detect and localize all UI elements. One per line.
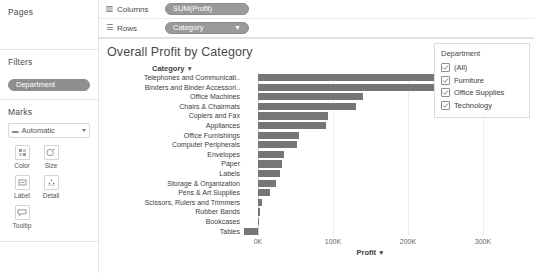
marks-size-label: Size — [45, 162, 58, 169]
row-label[interactable]: Envelopes — [99, 150, 243, 160]
color-icon — [15, 145, 30, 160]
gridline — [408, 92, 409, 102]
chart-row: Rubber Bands — [99, 207, 528, 217]
row-label[interactable]: Labels — [99, 169, 243, 179]
bar[interactable] — [258, 132, 299, 139]
x-tick-label: 100K — [325, 238, 341, 245]
chart-row: Appliances — [99, 121, 528, 131]
gridline — [483, 188, 484, 198]
pages-title: Pages — [8, 7, 90, 17]
row-label[interactable]: Tables — [99, 227, 243, 237]
row-label[interactable]: Chairs & Chairmats — [99, 102, 243, 112]
row-track — [243, 227, 528, 237]
legend-item-label: (All) — [454, 63, 467, 72]
gridline — [483, 150, 484, 160]
sidebar-empty-space — [0, 242, 98, 273]
legend-item[interactable]: Office Supplies — [441, 88, 523, 97]
marks-card-detail[interactable]: Detail — [37, 175, 65, 199]
marks-type-dropdown[interactable]: ▬ Automatic — [8, 123, 90, 138]
row-label[interactable]: Binders and Binder Accessori.. — [99, 83, 243, 93]
bar[interactable] — [258, 218, 259, 225]
zero-line — [258, 227, 259, 237]
bar[interactable] — [258, 189, 270, 196]
chart-row: Scissors, Rulers and Trimmers — [99, 198, 528, 208]
marks-type-label: Automatic — [22, 126, 83, 135]
gridline — [483, 227, 484, 237]
legend-item[interactable]: Furniture — [441, 76, 523, 85]
row-track — [243, 198, 528, 208]
row-label[interactable]: Paper — [99, 159, 243, 169]
legend-title: Department — [441, 49, 523, 58]
bar[interactable] — [258, 84, 443, 91]
bar[interactable] — [244, 228, 258, 235]
marks-card-size[interactable]: Size — [37, 145, 65, 169]
row-label[interactable]: Pens & Art Supplies — [99, 188, 243, 198]
checkbox-checked-icon[interactable] — [441, 101, 450, 110]
gridline — [483, 131, 484, 141]
bar[interactable] — [258, 151, 284, 158]
row-label[interactable]: Office Furnishings — [99, 131, 243, 141]
rows-shelf[interactable]: ☰ Rows Category ▼ — [99, 19, 534, 38]
bar[interactable] — [258, 93, 363, 100]
row-label[interactable]: Computer Peripherals — [99, 140, 243, 150]
marks-card-label[interactable]: Label — [8, 175, 36, 199]
bar[interactable] — [258, 122, 326, 129]
marks-card-color[interactable]: Color — [8, 145, 36, 169]
bar[interactable] — [258, 103, 356, 110]
shelf-area: ▥ Columns SUM(Profit) ☰ Rows Category ▼ — [99, 0, 534, 39]
marks-card-tooltip[interactable]: Tooltip — [8, 205, 36, 229]
row-label[interactable]: Office Machines — [99, 92, 243, 102]
gridline — [408, 227, 409, 237]
row-track — [243, 140, 528, 150]
bar[interactable] — [258, 160, 282, 167]
row-track — [243, 169, 528, 179]
legend-item-list: (All)FurnitureOffice SuppliesTechnology — [441, 63, 523, 110]
gridline — [333, 159, 334, 169]
gridline — [333, 217, 334, 227]
checkbox-checked-icon[interactable] — [441, 88, 450, 97]
row-label[interactable]: Storage & Organization — [99, 179, 243, 189]
columns-icon: ▥ — [105, 5, 114, 13]
gridline — [408, 159, 409, 169]
category-field-header[interactable]: Category▼ — [99, 64, 246, 73]
row-label[interactable]: Rubber Bands — [99, 207, 243, 217]
chart-row: Pens & Art Supplies — [99, 188, 528, 198]
category-field-header-label: Category — [152, 64, 185, 73]
legend-item[interactable]: (All) — [441, 63, 523, 72]
bar[interactable] — [258, 170, 280, 177]
row-label[interactable]: Telephones and Communicati.. — [99, 73, 243, 83]
row-label[interactable]: Copiers and Fax — [99, 111, 243, 121]
bar[interactable] — [258, 112, 328, 119]
checkbox-checked-icon[interactable] — [441, 63, 450, 72]
gridline — [483, 140, 484, 150]
detail-icon — [44, 175, 59, 190]
gridline — [408, 217, 409, 227]
gridline — [333, 207, 334, 217]
legend-department: Department (All)FurnitureOffice Supplies… — [434, 43, 530, 118]
gridline — [408, 131, 409, 141]
bar[interactable] — [258, 141, 297, 148]
chevron-down-icon — [82, 129, 86, 132]
pill-sum-profit[interactable]: SUM(Profit) — [165, 3, 249, 15]
pill-category[interactable]: Category ▼ — [165, 22, 249, 34]
chart-row: Storage & Organization — [99, 179, 528, 189]
bar[interactable] — [258, 199, 262, 206]
worksheet-area: ▥ Columns SUM(Profit) ☰ Rows Category ▼ — [99, 0, 534, 273]
row-label[interactable]: Bookcases — [99, 217, 243, 227]
legend-item[interactable]: Technology — [441, 101, 523, 110]
gridline — [483, 159, 484, 169]
checkbox-checked-icon[interactable] — [441, 76, 450, 85]
bar[interactable] — [258, 208, 260, 215]
columns-shelf[interactable]: ▥ Columns SUM(Profit) — [99, 0, 534, 19]
gridline — [408, 111, 409, 121]
filter-pill-department[interactable]: Department — [8, 79, 90, 91]
pill-category-label: Category — [173, 22, 203, 34]
x-axis-title[interactable]: Profit▼ — [356, 248, 384, 257]
tableau-workbook: Pages Filters Department Marks ▬ Automat… — [0, 0, 534, 273]
row-track — [243, 207, 528, 217]
bar[interactable] — [258, 180, 276, 187]
row-label[interactable]: Appliances — [99, 121, 243, 131]
row-track — [243, 217, 528, 227]
row-label[interactable]: Scissors, Rulers and Trimmers — [99, 198, 243, 208]
rows-pill-zone: Category ▼ — [165, 22, 249, 34]
